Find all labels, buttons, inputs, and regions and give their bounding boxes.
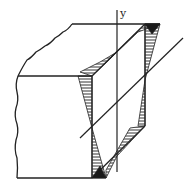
- y-axis-label: y: [119, 7, 127, 20]
- beam-stress-diagram: y: [0, 0, 195, 191]
- neutral-axis: [80, 38, 183, 138]
- broken-end: [15, 24, 72, 178]
- stress-distribution: [78, 24, 160, 178]
